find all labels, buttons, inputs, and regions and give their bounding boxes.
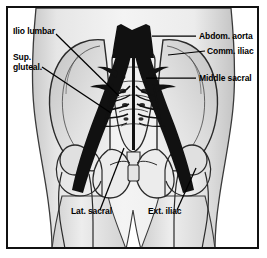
label-comm-iliac: Comm. iliac <box>207 46 254 56</box>
label-ext-iliac: Ext. iliac <box>148 206 182 216</box>
label-sup-gluteal-line2: gluteal. <box>13 62 42 72</box>
label-ilio-lumbar: Ilio lumbar <box>13 26 55 36</box>
anatomy-figure: Ilio lumbar Sup. gluteal. Abdom. aorta C… <box>0 0 267 258</box>
label-sup-gluteal-line1: Sup. <box>13 52 31 62</box>
label-middle-sacral: Middle sacral <box>199 73 252 83</box>
middle-sacral-artery <box>132 56 135 150</box>
label-abdom-aorta: Abdom. aorta <box>199 31 253 41</box>
pubic-symphysis <box>128 165 139 181</box>
label-lat-sacral: Lat. sacral <box>71 206 112 216</box>
